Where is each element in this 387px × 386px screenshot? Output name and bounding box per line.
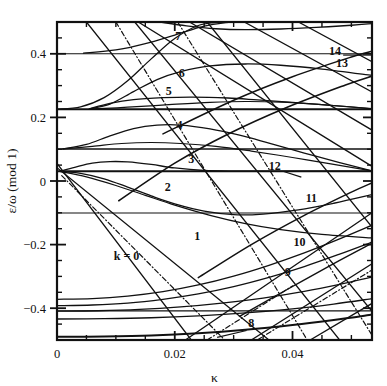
curve-label-12: 12	[269, 159, 281, 173]
curve-label-9: 9	[285, 265, 291, 279]
y-tick-label: 0.2	[30, 111, 46, 125]
curve-label-7: 7	[175, 29, 181, 43]
x-tick-label: 0	[54, 347, 60, 361]
plot-svg: 00.020.040.40.20−0.2−0.4 123456789101112…	[0, 0, 387, 386]
x-tick-label: 0.02	[164, 347, 186, 361]
k-zero-label: k = 0	[114, 249, 140, 263]
y-tick-label: 0	[40, 175, 46, 189]
annotation-layer: 1234567891011121314k = 0	[114, 29, 372, 337]
leader-12	[284, 171, 302, 177]
y-axis-title: ε/ω (mod 1)	[4, 149, 19, 214]
curve-label-11: 11	[306, 191, 317, 205]
curve-cross-e	[86, 22, 339, 340]
curve-layer	[57, 22, 372, 340]
curve-band-lower-4	[57, 299, 372, 319]
curve-label-2: 2	[165, 180, 171, 194]
curve-label-14: 14	[329, 44, 341, 58]
curve-cross-g	[207, 22, 372, 227]
curve-label-3: 3	[188, 152, 194, 166]
curve-label-13: 13	[336, 56, 348, 70]
y-tick-label: −0.4	[23, 302, 46, 316]
curve-band-7-rise	[57, 22, 222, 109]
x-axis-title: κ	[211, 370, 218, 385]
curve-k0-line-5	[257, 270, 372, 340]
curve-k0-line-2	[116, 22, 307, 340]
curve-label-5: 5	[166, 84, 172, 98]
curve-label-1: 1	[194, 229, 200, 243]
x-tick-label: 0.04	[282, 347, 305, 361]
y-tick-label: −0.2	[23, 238, 46, 252]
curve-label-4: 4	[176, 118, 182, 132]
quasienergy-spectrum-figure: 00.020.040.40.20−0.2−0.4 123456789101112…	[0, 0, 387, 386]
curve-label-10: 10	[294, 235, 306, 249]
tick-label-layer: 00.020.040.40.20−0.2−0.4	[23, 47, 304, 361]
curve-label-6: 6	[179, 66, 185, 80]
curve-band-bottom	[57, 315, 372, 337]
curve-label-8: 8	[248, 316, 254, 330]
curve-band-4	[63, 125, 372, 171]
curve-band-lower-1	[57, 225, 372, 299]
curve-band-4b	[63, 143, 372, 171]
y-tick-label: 0.4	[30, 47, 46, 61]
